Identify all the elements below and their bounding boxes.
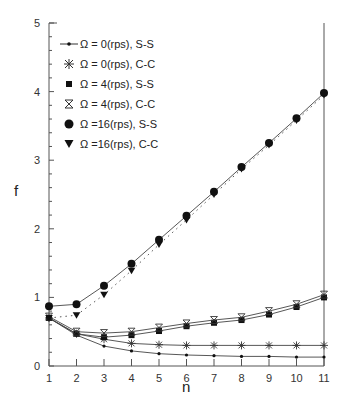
x-axis-label: n (182, 378, 190, 395)
svg-text:2: 2 (73, 372, 79, 384)
legend: Ω = 0(rps), S-S Ω = 0(rps), C-C Ω = 4(rp… (58, 34, 158, 154)
triangle-down-marker-icon (58, 138, 80, 150)
legend-item: Ω = 4(rps), C-C (58, 94, 158, 114)
asterisk-marker-icon (58, 58, 80, 70)
svg-text:9: 9 (266, 372, 272, 384)
svg-text:10: 10 (290, 372, 302, 384)
legend-item: Ω = 0(rps), S-S (58, 34, 158, 54)
legend-item: Ω =16(rps), S-S (58, 114, 158, 134)
dot-marker-icon (58, 38, 80, 50)
svg-text:5: 5 (156, 372, 162, 384)
circle-marker-icon (58, 118, 80, 130)
legend-item: Ω = 0(rps), C-C (58, 54, 158, 74)
chart-canvas: 0123451234567891011 (0, 0, 345, 418)
square-marker-icon (58, 78, 80, 90)
legend-item: Ω =16(rps), C-C (58, 134, 158, 154)
y-axis-label: f (14, 182, 18, 199)
svg-text:3: 3 (34, 154, 40, 166)
svg-text:3: 3 (101, 372, 107, 384)
svg-text:5: 5 (34, 17, 40, 29)
svg-text:4: 4 (34, 86, 40, 98)
svg-text:1: 1 (34, 291, 40, 303)
legend-item: Ω = 4(rps), S-S (58, 74, 158, 94)
svg-text:4: 4 (128, 372, 134, 384)
svg-text:8: 8 (238, 372, 244, 384)
svg-text:2: 2 (34, 223, 40, 235)
svg-text:0: 0 (34, 360, 40, 372)
svg-text:1: 1 (46, 372, 52, 384)
svg-text:11: 11 (318, 372, 329, 384)
hourglass-marker-icon (58, 98, 80, 110)
svg-text:7: 7 (211, 372, 217, 384)
